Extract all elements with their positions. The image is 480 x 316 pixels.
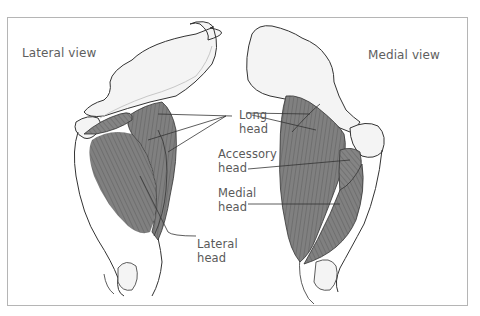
medial-head-label: Medial head	[218, 186, 256, 214]
long-head-label-line2: head	[239, 122, 268, 136]
medial-head-label-line2: head	[218, 200, 256, 214]
lateral-head-label-line1: Lateral	[197, 237, 238, 251]
long-head-label: Long head	[239, 108, 268, 136]
accessory-head-label: Accessory head	[218, 147, 277, 175]
long-head-label-line1: Long	[239, 108, 268, 122]
lateral-view-label: Lateral view	[22, 46, 96, 60]
lateral-head-label: Lateral head	[197, 237, 238, 265]
lateral-head-label-line2: head	[197, 251, 238, 265]
medial-view-label: Medial view	[368, 48, 440, 62]
medial-head-label-line1: Medial	[218, 186, 256, 200]
accessory-head-label-line1: Accessory	[218, 147, 277, 161]
accessory-head-label-line2: head	[218, 161, 277, 175]
